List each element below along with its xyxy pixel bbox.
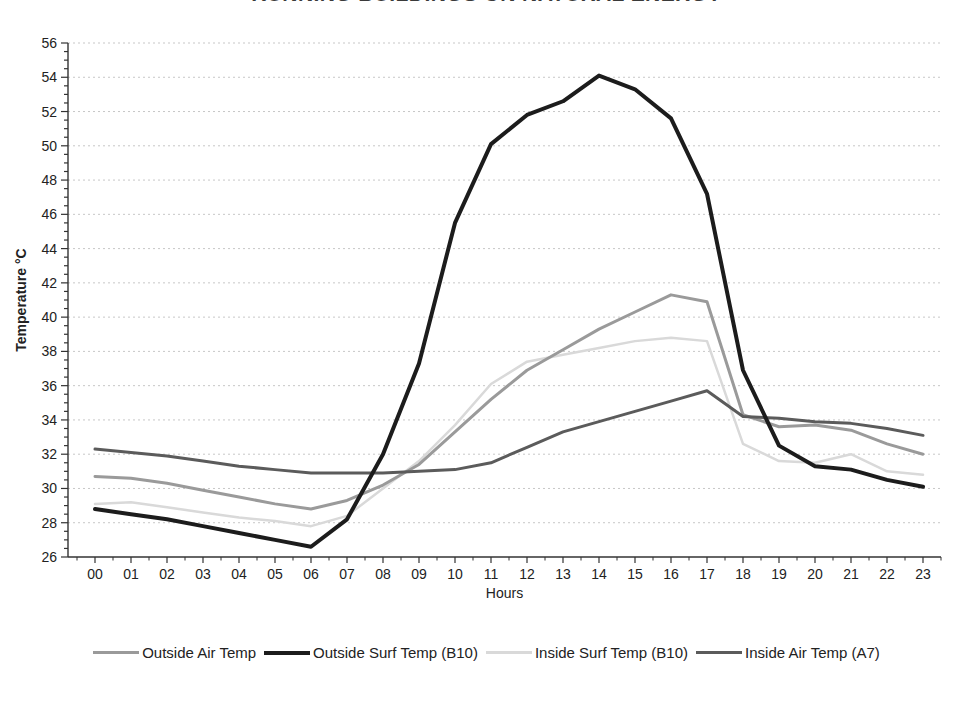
y-tick-label: 44 [41,241,57,257]
x-tick-label: 20 [807,566,823,582]
x-tick-label: 14 [591,566,607,582]
chart-area: 2628303234363840424446485052545600010203… [0,0,973,612]
x-tick-label: 06 [303,566,319,582]
legend: Outside Air TempOutside Surf Temp (B10)I… [0,644,973,661]
legend-item: Outside Surf Temp (B10) [264,644,478,661]
y-tick-label: 40 [41,309,57,325]
x-tick-label: 16 [663,566,679,582]
x-tick-label: 01 [123,566,139,582]
y-axis-title: Temperature °C [13,248,29,351]
x-tick-label: 00 [87,566,103,582]
legend-item: Outside Air Temp [93,644,256,661]
y-tick-label: 54 [41,69,57,85]
y-tick-label: 34 [41,412,57,428]
x-tick-label: 08 [375,566,391,582]
legend-label: Outside Surf Temp (B10) [313,644,478,661]
x-tick-label: 18 [735,566,751,582]
y-tick-label: 36 [41,378,57,394]
y-tick-label: 38 [41,343,57,359]
y-tick-label: 46 [41,206,57,222]
legend-label: Inside Air Temp (A7) [745,644,880,661]
legend-label: Inside Surf Temp (B10) [535,644,688,661]
y-tick-label: 50 [41,138,57,154]
x-tick-label: 09 [411,566,427,582]
x-tick-label: 22 [879,566,895,582]
y-tick-label: 42 [41,275,57,291]
legend-label: Outside Air Temp [142,644,256,661]
x-tick-label: 05 [267,566,283,582]
y-tick-label: 32 [41,446,57,462]
y-tick-label: 30 [41,480,57,496]
x-tick-label: 10 [447,566,463,582]
x-tick-label: 04 [231,566,247,582]
x-tick-label: 13 [555,566,571,582]
x-tick-label: 02 [159,566,175,582]
y-tick-label: 28 [41,515,57,531]
legend-item: Inside Air Temp (A7) [696,644,880,661]
x-tick-label: 07 [339,566,355,582]
chart-svg: 2628303234363840424446485052545600010203… [0,0,973,612]
x-tick-label: 19 [771,566,787,582]
y-tick-label: 26 [41,549,57,565]
x-tick-label: 03 [195,566,211,582]
x-axis-title: Hours [36,585,973,601]
series-line-4 [95,391,923,473]
series-line-1 [95,295,923,509]
x-tick-label: 17 [699,566,715,582]
legend-swatch [93,651,139,654]
legend-swatch [486,651,532,654]
x-tick-label: 12 [519,566,535,582]
x-tick-label: 21 [843,566,859,582]
series-line-3 [95,338,923,526]
y-tick-label: 52 [41,104,57,120]
legend-swatch [696,651,742,654]
legend-item: Inside Surf Temp (B10) [486,644,688,661]
legend-swatch [264,651,310,655]
x-tick-label: 15 [627,566,643,582]
y-tick-label: 56 [41,35,57,51]
x-tick-label: 11 [484,566,499,582]
y-tick-label: 48 [41,172,57,188]
x-tick-label: 23 [915,566,931,582]
